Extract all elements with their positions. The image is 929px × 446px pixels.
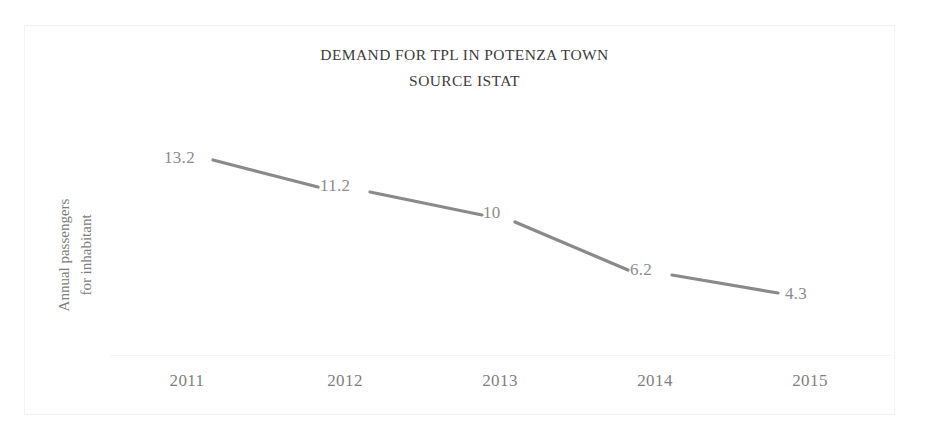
chart-title: DEMAND FOR TPL IN POTENZA TOWN SOURCE IS… bbox=[0, 42, 929, 94]
y-axis-label-line-1: Annual passengers bbox=[53, 199, 75, 312]
data-label-2013: 10 bbox=[483, 203, 501, 223]
data-label-2012: 11.2 bbox=[320, 176, 350, 196]
x-tick-2011: 2011 bbox=[142, 371, 232, 391]
data-label-2014: 6.2 bbox=[630, 260, 652, 280]
x-tick-2012: 2012 bbox=[300, 371, 390, 391]
y-axis-label-text: Annual passengers for inhabitant bbox=[53, 199, 97, 312]
x-tick-2015: 2015 bbox=[765, 371, 855, 391]
chart-title-line-2: SOURCE ISTAT bbox=[0, 68, 929, 94]
chart-screenshot: DEMAND FOR TPL IN POTENZA TOWN SOURCE IS… bbox=[0, 0, 929, 446]
data-label-2011: 13.2 bbox=[164, 148, 195, 168]
y-axis-label: Annual passengers for inhabitant bbox=[38, 140, 112, 370]
data-label-2015: 4.3 bbox=[785, 284, 807, 304]
plot-baseline bbox=[110, 355, 891, 356]
x-tick-2013: 2013 bbox=[455, 371, 545, 391]
y-axis-label-line-2: for inhabitant bbox=[75, 199, 97, 312]
chart-title-line-1: DEMAND FOR TPL IN POTENZA TOWN bbox=[0, 42, 929, 68]
x-tick-2014: 2014 bbox=[610, 371, 700, 391]
